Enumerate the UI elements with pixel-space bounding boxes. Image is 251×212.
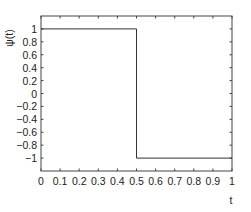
wavelet-series-line	[41, 29, 232, 158]
x-axis-label: t	[230, 194, 233, 206]
y-tick-label: 0.4	[22, 62, 37, 74]
y-tick-label: 0.8	[22, 36, 37, 48]
x-axis-tick-labels: 00.10.20.30.40.50.60.70.80.91	[38, 175, 235, 187]
y-tick-label: 0.2	[22, 75, 37, 87]
y-tick-label: −0.4	[16, 113, 37, 125]
x-tick-label: 0.1	[53, 175, 68, 187]
y-axis-tick-labels: 10.80.60.40.20−0.2−0.4−0.6−0.8−1	[16, 23, 37, 164]
x-tick-label: 0	[38, 175, 44, 187]
y-tick-label: 0.6	[22, 49, 37, 61]
x-tick-label: 0.2	[72, 175, 87, 187]
x-tick-label: 0.7	[167, 175, 182, 187]
x-tick-label: 0.5	[129, 175, 144, 187]
y-tick-label: −1	[25, 152, 37, 164]
x-tick-label: 0.3	[91, 175, 106, 187]
y-tick-label: 0	[31, 88, 37, 100]
x-tick-label: 0.6	[148, 175, 163, 187]
x-tick-label: 0.8	[186, 175, 201, 187]
y-axis-label: ψ(t)	[3, 29, 15, 46]
y-tick-label: −0.6	[16, 126, 37, 138]
x-tick-label: 0.4	[110, 175, 125, 187]
y-tick-label: −0.8	[16, 139, 37, 151]
y-tick-label: −0.2	[16, 100, 37, 112]
x-tick-label: 0.9	[206, 175, 221, 187]
haar-wavelet-chart: 00.10.20.30.40.50.60.70.80.91 10.80.60.4…	[0, 0, 251, 212]
y-tick-label: 1	[31, 23, 37, 35]
x-tick-label: 1	[229, 175, 235, 187]
